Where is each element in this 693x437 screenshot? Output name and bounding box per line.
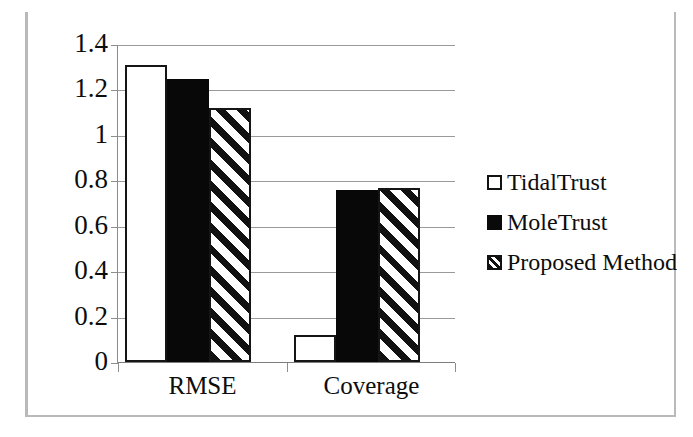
y-axis-tick-label: 0 [30,351,108,371]
bar-coverage-proposed-method [378,188,420,362]
y-axis-tick-label: 1.2 [30,78,108,98]
legend-swatch-hatched-square-icon [487,255,502,270]
legend-label: MoleTrust [507,210,607,234]
y-axis-tick [111,363,118,364]
legend-item-tidaltrust: TidalTrust [487,162,672,202]
bar-coverage-moletrust [336,190,378,362]
x-axis-category-label-rmse: RMSE [118,371,287,401]
y-axis-tick [111,318,118,319]
legend-swatch-filled-square-icon [487,215,502,230]
bar-chart: 1.4 1.2 1 0.8 0.6 0.4 0.2 0 RMSE Coverag… [0,0,693,437]
gridline [118,45,455,46]
y-axis-tick-label: 0.8 [30,169,108,189]
y-axis-tick-label: 0.2 [30,306,108,326]
bar-rmse-proposed-method [209,108,251,362]
y-axis-tick-label: 0.6 [30,215,108,235]
y-axis-tick [111,272,118,273]
legend-label: TidalTrust [507,170,607,194]
legend-item-proposed-method: Proposed Method [487,242,672,282]
legend-item-moletrust: MoleTrust [487,202,672,242]
legend-swatch-open-square-icon [487,175,502,190]
y-axis-tick [111,90,118,91]
legend-label: Proposed Method [507,250,677,274]
chart-legend: TidalTrust MoleTrust Proposed Method [487,162,672,282]
y-axis-tick-label: 1 [30,124,108,144]
y-axis-tick [111,136,118,137]
y-axis-tick [111,45,118,46]
y-axis-tick-label: 0.4 [30,260,108,280]
y-axis-tick [111,227,118,228]
bar-rmse-tidaltrust [125,65,167,362]
bar-rmse-moletrust [167,79,209,362]
bar-coverage-tidaltrust [294,335,336,362]
y-axis-tick-label: 1.4 [30,33,108,53]
x-axis-category-label-coverage: Coverage [287,371,456,401]
plot-area [118,45,455,363]
y-axis-tick [111,181,118,182]
